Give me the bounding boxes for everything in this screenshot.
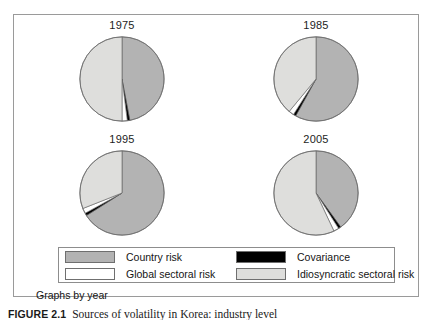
figure-caption: FIGURE 2.1Sources of volatility in Korea… <box>8 308 428 320</box>
legend-swatch-idiosyncratic-sectoral-risk <box>236 268 286 280</box>
graphs-by-year-label: Graphs by year <box>36 289 108 301</box>
legend-swatch-covariance <box>236 251 286 263</box>
pie-svg-1975 <box>79 36 165 122</box>
pie-slice <box>122 37 164 121</box>
legend-label-global-sectoral-risk: Global sectoral risk <box>126 269 215 280</box>
pie-svg-1995 <box>79 150 165 236</box>
pie-chart-1975 <box>79 36 165 122</box>
legend-row: Global sectoral risk Idiosyncratic secto… <box>59 266 396 282</box>
pie-title-1995: 1995 <box>52 133 192 145</box>
figure-root: 1975 1985 1995 <box>0 0 436 322</box>
pie-svg-1985 <box>273 36 359 122</box>
pie-title-2005: 2005 <box>246 133 386 145</box>
legend-item-global-sectoral-risk: Global sectoral risk <box>65 266 215 282</box>
legend-label-idiosyncratic-sectoral-risk: Idiosyncratic sectoral risk <box>297 269 414 280</box>
pie-title-1985: 1985 <box>246 19 386 31</box>
pie-slice <box>80 37 122 121</box>
pie-chart-2005 <box>273 150 359 236</box>
legend-row: Country risk Covariance <box>59 249 396 265</box>
pie-cell-1995: 1995 <box>52 133 192 251</box>
legend-label-covariance: Covariance <box>297 252 350 263</box>
legend-item-country-risk: Country risk <box>65 249 182 265</box>
legend-item-idiosyncratic-sectoral-risk: Idiosyncratic sectoral risk <box>236 266 414 282</box>
pie-svg-2005 <box>273 150 359 236</box>
pie-cell-2005: 2005 <box>246 133 386 251</box>
legend-label-country-risk: Country risk <box>126 252 182 263</box>
figure-caption-number: FIGURE 2.1 <box>8 308 66 320</box>
figure-panel-frame: 1975 1985 1995 <box>13 14 419 297</box>
legend-swatch-global-sectoral-risk <box>65 268 115 280</box>
legend-swatch-country-risk <box>65 251 115 263</box>
figure-caption-text: Sources of volatility in Korea: industry… <box>72 308 277 320</box>
chart-legend: Country risk Covariance Global sectoral … <box>58 247 395 283</box>
legend-item-covariance: Covariance <box>236 249 350 265</box>
pie-cell-1975: 1975 <box>52 19 192 137</box>
pie-cell-1985: 1985 <box>246 19 386 137</box>
pie-chart-1995 <box>79 150 165 236</box>
pie-title-1975: 1975 <box>52 19 192 31</box>
pie-chart-1985 <box>273 36 359 122</box>
